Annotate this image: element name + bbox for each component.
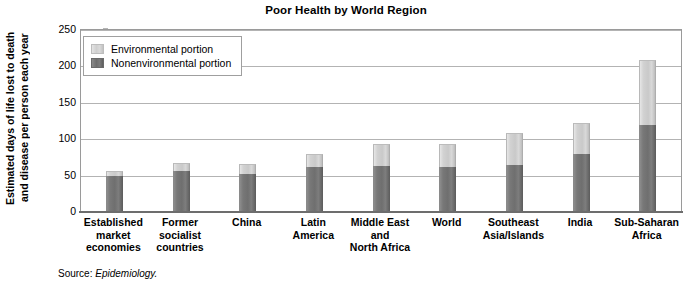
x-axis-label-1-line-1: socialist	[147, 229, 214, 242]
chart-legend: Environmental portion Nonenvironmental p…	[83, 36, 242, 76]
x-axis-label-2-line-0: China	[213, 216, 280, 229]
bar-2	[239, 164, 256, 212]
x-axis-label-4: Middle EastandNorth Africa	[347, 216, 414, 254]
gridline-100	[81, 139, 681, 140]
y-axis-title-line-2: and disease per person each year	[17, 18, 31, 218]
x-axis-label-8-line-1: Africa	[613, 229, 680, 242]
environmental-swatch-icon	[91, 44, 104, 54]
bar-segment-environmental-4	[373, 144, 390, 166]
y-tick-label-200: 200	[36, 59, 76, 71]
x-axis-label-7-line-0: India	[547, 216, 614, 229]
x-axis-label-1: Formersocialistcountries	[147, 216, 214, 254]
bar-segment-nonenvironmental-0	[106, 176, 123, 212]
bar-segment-environmental-8	[639, 60, 656, 126]
bar-segment-nonenvironmental-8	[639, 125, 656, 212]
bar-segment-nonenvironmental-4	[373, 166, 390, 212]
bar-6	[506, 133, 523, 212]
x-axis-label-6-line-1: Asia/Islands	[480, 229, 547, 242]
y-axis-ticks: 050100150200250	[30, 29, 76, 213]
x-axis-label-6: SoutheastAsia/Islands	[480, 216, 547, 241]
bar-segment-nonenvironmental-3	[306, 167, 323, 212]
x-axis-label-4-line-2: North Africa	[347, 241, 414, 254]
x-axis-label-5: World	[413, 216, 480, 229]
source-prefix: Source:	[58, 268, 92, 279]
bar-segment-nonenvironmental-2	[239, 174, 256, 212]
y-tick-label-50: 50	[36, 169, 76, 181]
x-axis-label-3-line-1: America	[280, 229, 347, 242]
x-axis-label-0-line-1: market	[80, 229, 147, 242]
y-tick-label-100: 100	[36, 132, 76, 144]
x-axis-label-8-line-0: Sub-Saharan	[613, 216, 680, 229]
x-axis-labels: EstablishedmarketeconomiesFormersocialis…	[80, 216, 682, 264]
bar-segment-nonenvironmental-1	[173, 171, 190, 212]
gridline-150	[81, 103, 681, 104]
legend-item-nonenvironmental: Nonenvironmental portion	[91, 56, 231, 70]
x-axis-label-4-line-0: Middle East	[347, 216, 414, 229]
x-axis-label-1-line-2: countries	[147, 241, 214, 254]
y-tick-label-150: 150	[36, 96, 76, 108]
bar-0	[106, 171, 123, 212]
bar-7	[573, 123, 590, 212]
x-axis-label-5-line-0: World	[413, 216, 480, 229]
x-axis-label-0-line-0: Established	[80, 216, 147, 229]
x-axis-label-0: Establishedmarketeconomies	[80, 216, 147, 254]
x-axis-label-4-line-1: and	[347, 229, 414, 242]
x-axis-label-8: Sub-SaharanAfrica	[613, 216, 680, 241]
x-axis-line	[79, 211, 683, 213]
bar-segment-nonenvironmental-6	[506, 165, 523, 212]
y-tick-label-250: 250	[36, 23, 76, 35]
x-axis-label-6-line-0: Southeast	[480, 216, 547, 229]
bar-segment-nonenvironmental-7	[573, 154, 590, 212]
bar-segment-environmental-3	[306, 154, 323, 167]
bar-segment-environmental-6	[506, 133, 523, 165]
bar-8	[639, 60, 656, 212]
gridline-250	[81, 30, 681, 31]
bar-5	[439, 144, 456, 212]
bar-3	[306, 154, 323, 212]
bar-segment-environmental-7	[573, 123, 590, 154]
nonenvironmental-swatch-icon	[91, 58, 104, 68]
y-axis-title: Estimated days of life lost to death and…	[2, 18, 32, 218]
bar-segment-nonenvironmental-5	[439, 167, 456, 212]
bar-segment-environmental-1	[173, 163, 190, 171]
legend-label-nonenvironmental: Nonenvironmental portion	[111, 57, 231, 69]
chart-title: Poor Health by World Region	[0, 4, 692, 16]
source-reference: Epidemiology.	[95, 268, 157, 279]
y-axis-title-line-1: Estimated days of life lost to death	[3, 18, 17, 218]
x-axis-label-7: India	[547, 216, 614, 229]
x-axis-label-3: LatinAmerica	[280, 216, 347, 241]
bar-segment-environmental-5	[439, 144, 456, 167]
legend-label-environmental: Environmental portion	[111, 43, 213, 55]
y-tick-label-0: 0	[36, 205, 76, 217]
x-axis-label-1-line-0: Former	[147, 216, 214, 229]
legend-item-environmental: Environmental portion	[91, 42, 231, 56]
bar-4	[373, 144, 390, 212]
x-axis-label-0-line-2: economies	[80, 241, 147, 254]
bar-1	[173, 163, 190, 212]
source-note: Source: Epidemiology.	[58, 268, 157, 279]
x-axis-label-2: China	[213, 216, 280, 229]
chart-figure: Poor Health by World Region Estimated da…	[0, 0, 692, 290]
x-axis-label-3-line-0: Latin	[280, 216, 347, 229]
bar-segment-environmental-2	[239, 164, 256, 174]
